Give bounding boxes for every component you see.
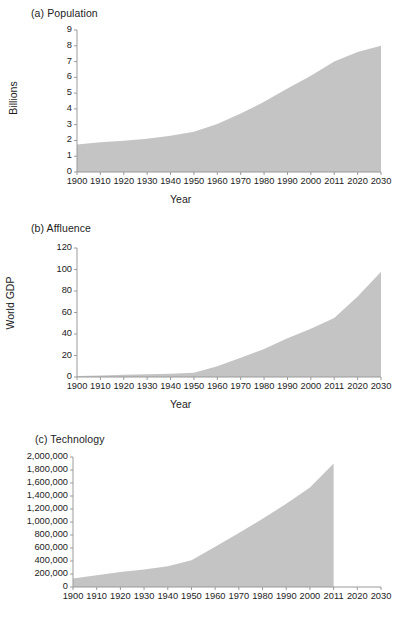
- x-tick-label: 1900: [65, 176, 89, 186]
- chart-panel-affluence: (b) Affluence World GDP Year 02040608010…: [0, 215, 390, 427]
- y-tick-label: 20: [62, 350, 72, 360]
- x-tick-label: 1930: [132, 591, 156, 601]
- y-tick-label: 3: [67, 119, 72, 129]
- x-tick-label: 1910: [85, 591, 109, 601]
- x-tick-label: 1900: [61, 591, 85, 601]
- x-tick-label: 1940: [159, 381, 183, 391]
- x-tick-label: 2011: [322, 176, 346, 186]
- x-tick-label: 2030: [369, 176, 393, 186]
- chart-panel-population: (a) Population Billions Year 01234567891…: [0, 0, 390, 215]
- x-tick-label: 2000: [299, 176, 323, 186]
- y-tick-label: 120: [56, 242, 72, 252]
- x-tick-label: 1990: [275, 176, 299, 186]
- x-tick-label: 1970: [227, 591, 251, 601]
- x-tick-label: 1930: [135, 381, 159, 391]
- y-tick-label: 80: [62, 285, 72, 295]
- x-tick-label: 1920: [108, 591, 132, 601]
- y-tick-label: 1,000,000: [27, 516, 68, 526]
- x-tick-label: 2020: [346, 381, 370, 391]
- y-tick-label: 1,400,000: [27, 490, 68, 500]
- y-tick-label: 1: [67, 150, 72, 160]
- y-tick-label: 1,800,000: [27, 464, 68, 474]
- y-tick-label: 800,000: [34, 529, 68, 539]
- x-tick-label: 1970: [229, 176, 253, 186]
- y-tick-label: 2,000,000: [27, 451, 68, 461]
- y-tick-label: 1,200,000: [27, 503, 68, 513]
- x-tick-label: 1960: [203, 591, 227, 601]
- x-tick-label: 1930: [135, 176, 159, 186]
- y-tick-label: 0: [67, 166, 72, 176]
- x-tick-label: 1920: [112, 176, 136, 186]
- x-tick-label: 1910: [88, 176, 112, 186]
- x-tick-label: 1950: [182, 381, 206, 391]
- x-tick-label: 1940: [156, 591, 180, 601]
- x-tick-label: 2030: [369, 381, 393, 391]
- x-tick-label: 1940: [159, 176, 183, 186]
- x-tick-label: 1980: [251, 591, 275, 601]
- y-tick-label: 9: [67, 24, 72, 34]
- x-tick-label: 1980: [252, 176, 276, 186]
- y-tick-label: 100: [56, 264, 72, 274]
- y-tick-label: 7: [67, 56, 72, 66]
- y-tick-label: 200,000: [34, 568, 68, 578]
- x-tick-label: 1990: [274, 591, 298, 601]
- x-tick-label: 2000: [299, 381, 323, 391]
- x-tick-label: 2020: [346, 176, 370, 186]
- y-tick-label: 4: [67, 103, 72, 113]
- y-tick-label: 2: [67, 134, 72, 144]
- x-tick-label: 1920: [112, 381, 136, 391]
- x-tick-label: 1950: [179, 591, 203, 601]
- y-tick-label: 6: [67, 71, 72, 81]
- x-tick-label: 2000: [298, 591, 322, 601]
- x-tick-label: 2011: [322, 381, 346, 391]
- chart-panel-technology: (c) Technology Number of patents 0200,00…: [0, 427, 390, 623]
- area-series: [77, 272, 381, 377]
- x-tick-label: 2030: [369, 591, 393, 601]
- y-tick-label: 40: [62, 328, 72, 338]
- y-tick-label: 600,000: [34, 542, 68, 552]
- x-tick-label: 1950: [182, 176, 206, 186]
- area-series: [73, 464, 334, 588]
- x-tick-label: 1960: [205, 176, 229, 186]
- y-tick-label: 8: [67, 40, 72, 50]
- x-tick-label: 1990: [275, 381, 299, 391]
- area-series: [77, 46, 381, 172]
- y-tick-label: 400,000: [34, 555, 68, 565]
- x-tick-label: 1910: [88, 381, 112, 391]
- y-tick-label: 60: [62, 307, 72, 317]
- y-tick-label: 1,600,000: [27, 477, 68, 487]
- x-tick-label: 1900: [65, 381, 89, 391]
- x-tick-label: 1960: [205, 381, 229, 391]
- x-tick-label: 1970: [229, 381, 253, 391]
- y-tick-label: 0: [67, 371, 72, 381]
- x-tick-label: 2011: [322, 591, 346, 601]
- x-tick-label: 2020: [345, 591, 369, 601]
- x-tick-label: 1980: [252, 381, 276, 391]
- y-tick-label: 0: [63, 581, 68, 591]
- y-tick-label: 5: [67, 87, 72, 97]
